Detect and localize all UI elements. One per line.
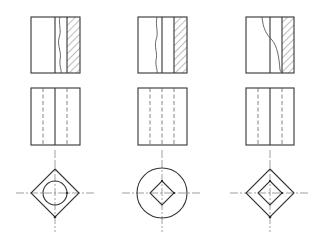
vertex-dot	[54, 216, 57, 219]
section-hatch	[67, 17, 80, 73]
break-line	[155, 17, 157, 73]
part-2-side-view	[138, 88, 187, 160]
vertex-dot	[173, 192, 175, 194]
part-2-top-view	[122, 160, 200, 232]
section-hatch	[282, 17, 294, 73]
part-1-side-view	[31, 88, 80, 160]
part-3-side-view	[246, 88, 294, 160]
break-line	[59, 17, 62, 73]
part-3-front-view	[246, 17, 294, 73]
drawing-svg	[0, 0, 319, 244]
part-1-front-view	[31, 17, 80, 73]
vertex-dot	[281, 192, 283, 194]
vertex-dot	[161, 180, 163, 182]
part-1-top-view	[16, 160, 94, 232]
vertex-dot	[269, 180, 271, 182]
break-line	[262, 17, 282, 73]
side-outline	[138, 88, 187, 145]
part-2-front-view	[138, 17, 187, 73]
section-hatch	[174, 17, 187, 73]
vertex-dot	[66, 192, 68, 194]
vertex-dot	[269, 216, 272, 219]
part-3-top-view	[230, 160, 308, 232]
orthographic-drawing-sheet	[0, 0, 319, 244]
